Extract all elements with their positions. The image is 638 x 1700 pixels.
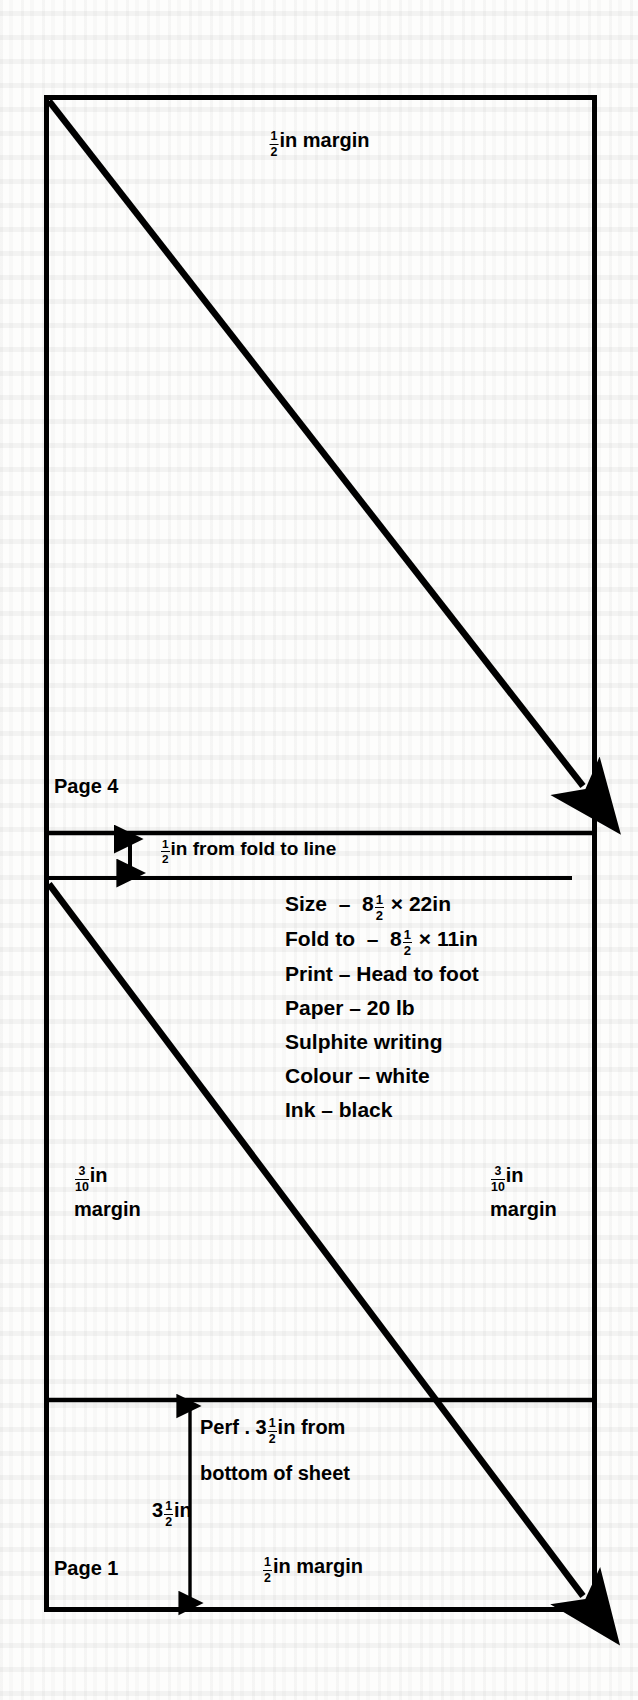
specification-block: Size – 812 × 22in Fold to – 812 × 11in P…	[285, 887, 479, 1127]
label-page-1: Page 1	[54, 1558, 118, 1579]
spec-line-ink: Ink – black	[285, 1093, 479, 1127]
label-fold-to-line: 1 2 in from fold to line	[160, 838, 336, 865]
spec-line-fold-to: Fold to – 812 × 11in	[285, 922, 479, 957]
fraction-one-half: 1 2	[161, 838, 170, 865]
fraction-three-tenths: 3 10	[491, 1165, 505, 1193]
label-perf-dimension: 312in	[152, 1500, 192, 1528]
label-fold-to-line-text: in from fold to line	[171, 838, 337, 859]
spec-line-colour: Colour – white	[285, 1059, 479, 1093]
label-perf-line1: Perf . 312in from	[200, 1416, 345, 1438]
label-bottom-margin: 1 2 in margin	[262, 1556, 363, 1584]
label-top-margin-text: in margin	[279, 129, 369, 151]
label-perforation-note: Perf . 312in from bottom of sheet	[200, 1417, 350, 1484]
diagonal-arrow-upper	[49, 101, 583, 786]
spec-line-paper: Paper – 20 lb	[285, 991, 479, 1025]
spec-line-size: Size – 812 × 22in	[285, 887, 479, 922]
label-top-margin: 1 2 in margin	[269, 130, 370, 158]
label-page-4: Page 4	[54, 776, 118, 797]
label-margin-left-unit: in	[90, 1164, 108, 1186]
fraction-one-half: 1 2	[263, 1556, 272, 1584]
label-perf-line2: bottom of sheet	[200, 1463, 350, 1484]
label-margin-right: 3 10 in margin	[490, 1165, 557, 1220]
label-bottom-margin-text: in margin	[273, 1555, 363, 1577]
spec-line-sulphite: Sulphite writing	[285, 1025, 479, 1059]
spec-line-print: Print – Head to foot	[285, 957, 479, 991]
label-margin-left: 3 10 in margin	[74, 1165, 141, 1220]
fraction-three-tenths: 3 10	[75, 1165, 89, 1193]
fraction-one-half: 12	[403, 928, 412, 957]
fraction-one-half: 1 2	[270, 130, 279, 158]
fraction-one-half: 12	[375, 893, 384, 922]
label-margin-right-unit: in	[506, 1164, 524, 1186]
fraction-one-half: 12	[268, 1417, 277, 1445]
label-margin-left-word: margin	[74, 1199, 141, 1220]
fraction-one-half: 12	[164, 1500, 173, 1528]
label-margin-right-word: margin	[490, 1199, 557, 1220]
